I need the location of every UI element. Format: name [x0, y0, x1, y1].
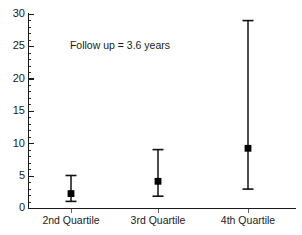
y-axis-ticks — [29, 14, 34, 208]
error-bar-3rd-quartile — [153, 150, 164, 197]
x-tick-label-2nd-quartile: 2nd Quartile — [42, 214, 99, 226]
data-point-marker — [155, 178, 162, 185]
y-tick-label-10: 10 — [13, 137, 25, 149]
error-bar-2nd-quartile — [66, 176, 77, 202]
x-tick-label-3rd-quartile: 3rd Quartile — [131, 214, 186, 226]
y-tick-label-20: 20 — [13, 72, 25, 84]
data-point-marker — [68, 190, 75, 197]
y-tick-label-0: 0 — [19, 201, 25, 213]
data-point-marker — [245, 145, 252, 152]
chart-canvas: 0 5 10 15 20 25 30 Follow up = 3.6 years — [0, 0, 302, 235]
y-tick-label-15: 15 — [13, 104, 25, 116]
y-tick-label-25: 25 — [13, 39, 25, 51]
error-bar-chart: 0 5 10 15 20 25 30 Follow up = 3.6 years — [0, 0, 302, 235]
annotation-follow-up: Follow up = 3.6 years — [70, 39, 170, 51]
y-tick-label-30: 30 — [13, 7, 25, 19]
x-tick-label-4th-quartile: 4th Quartile — [221, 214, 275, 226]
error-bar-4th-quartile — [243, 21, 254, 190]
y-tick-label-5: 5 — [19, 169, 25, 181]
